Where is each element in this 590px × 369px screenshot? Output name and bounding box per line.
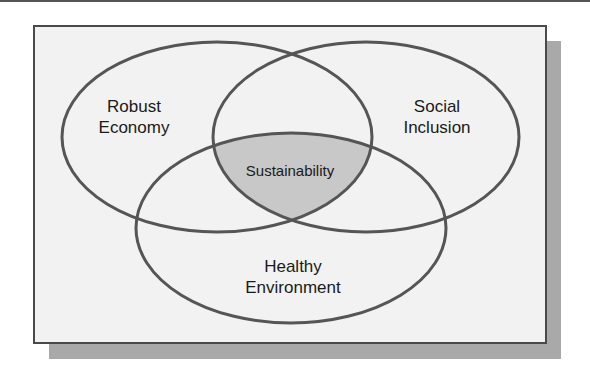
label-line: Healthy bbox=[245, 256, 340, 277]
label-line: Inclusion bbox=[403, 117, 470, 138]
label-robust-economy: Robust Economy bbox=[99, 96, 170, 138]
label-line: Robust bbox=[99, 96, 170, 117]
label-line: Economy bbox=[99, 117, 170, 138]
venn-diagram bbox=[0, 0, 590, 369]
label-line: Environment bbox=[245, 277, 340, 298]
label-sustainability: Sustainability bbox=[246, 160, 334, 181]
label-line: Social bbox=[403, 96, 470, 117]
label-social-inclusion: Social Inclusion bbox=[403, 96, 470, 138]
label-healthy-environment: Healthy Environment bbox=[245, 256, 340, 298]
